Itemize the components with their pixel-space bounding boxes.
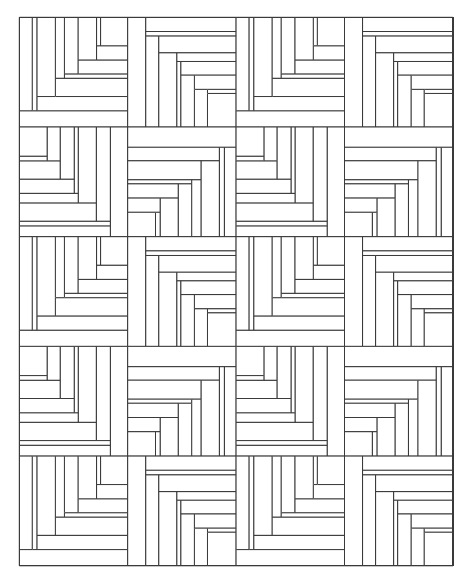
block-a (236, 456, 344, 566)
strip (295, 127, 313, 203)
strip (376, 475, 453, 492)
strip (272, 78, 344, 96)
strip (97, 485, 128, 499)
strip (345, 147, 437, 161)
strip (398, 514, 412, 566)
block-d (345, 127, 453, 237)
strip (146, 470, 236, 475)
strip (411, 514, 453, 528)
strip (128, 399, 192, 403)
strip (236, 330, 344, 346)
strip (363, 470, 453, 475)
strip (177, 500, 181, 566)
strip (128, 403, 178, 417)
strip (372, 432, 377, 456)
strip (254, 456, 272, 535)
strip (207, 528, 236, 532)
strip (254, 97, 345, 111)
quilt-pattern (0, 0, 471, 583)
strip (47, 346, 60, 380)
strip (128, 161, 201, 180)
strip (363, 17, 453, 31)
strip (424, 532, 453, 566)
strip (363, 36, 376, 127)
strip (345, 17, 363, 127)
strip (55, 78, 127, 96)
strip (254, 237, 272, 316)
strip (32, 237, 37, 330)
strip (408, 399, 417, 456)
strip (254, 316, 345, 330)
strip (376, 53, 394, 127)
strip (281, 17, 295, 74)
strip (37, 535, 128, 549)
strip (78, 456, 96, 499)
strip (295, 17, 313, 60)
block-c (19, 127, 127, 237)
strip (281, 456, 295, 513)
strip (177, 492, 236, 501)
strip (345, 184, 395, 198)
block-c (236, 346, 344, 456)
strip (376, 492, 394, 566)
strip (411, 309, 424, 347)
strip (411, 528, 424, 566)
strip (159, 53, 177, 127)
strip (128, 180, 192, 184)
strip (19, 127, 47, 156)
strip (345, 418, 377, 432)
strip (408, 180, 417, 237)
strip (146, 32, 236, 37)
strip (219, 367, 224, 456)
strip (64, 293, 127, 297)
strip (236, 221, 327, 226)
strip (236, 441, 327, 446)
strip (19, 376, 47, 381)
strip (317, 237, 344, 265)
strip (436, 147, 441, 236)
strip (345, 161, 418, 180)
strip (64, 17, 78, 74)
strip (376, 36, 453, 53)
strip (327, 127, 344, 237)
strip (201, 161, 219, 237)
strip (55, 517, 127, 535)
strip (327, 346, 344, 456)
strip (78, 237, 96, 280)
strip (19, 413, 78, 423)
strip (128, 456, 146, 566)
strip (398, 500, 453, 514)
strip (345, 180, 409, 184)
strip (236, 376, 264, 381)
strip (19, 179, 74, 193)
strip (47, 127, 60, 161)
strip (398, 75, 412, 127)
strip (19, 550, 127, 566)
strip (128, 346, 236, 366)
strip (194, 309, 207, 347)
strip (128, 147, 220, 161)
block-a (236, 237, 344, 347)
strip (398, 61, 453, 75)
strip (264, 127, 277, 161)
strip (128, 380, 201, 399)
strip (395, 403, 408, 456)
strip (64, 456, 78, 513)
strip (394, 272, 453, 281)
strip (398, 281, 453, 295)
strip (178, 403, 191, 456)
strip (363, 475, 376, 566)
strip (160, 418, 178, 457)
strip (146, 255, 159, 346)
block-b (128, 237, 236, 347)
strip (272, 517, 344, 535)
strip (37, 316, 128, 330)
strip (363, 255, 376, 346)
strip (394, 53, 453, 62)
strip (424, 528, 453, 532)
strip (236, 17, 249, 110)
strip (441, 147, 453, 236)
strip (277, 127, 291, 179)
strip (64, 74, 127, 78)
strip (313, 46, 344, 60)
